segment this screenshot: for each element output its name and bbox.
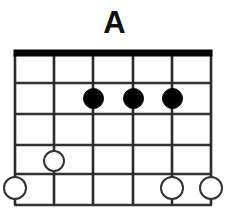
string-line-group	[15, 55, 211, 206]
fret-line-group	[14, 83, 212, 205]
chord-diagram: A	[0, 0, 229, 212]
fretboard-grid	[0, 0, 229, 212]
fretboard	[0, 0, 229, 212]
nut-bar	[14, 50, 213, 57]
